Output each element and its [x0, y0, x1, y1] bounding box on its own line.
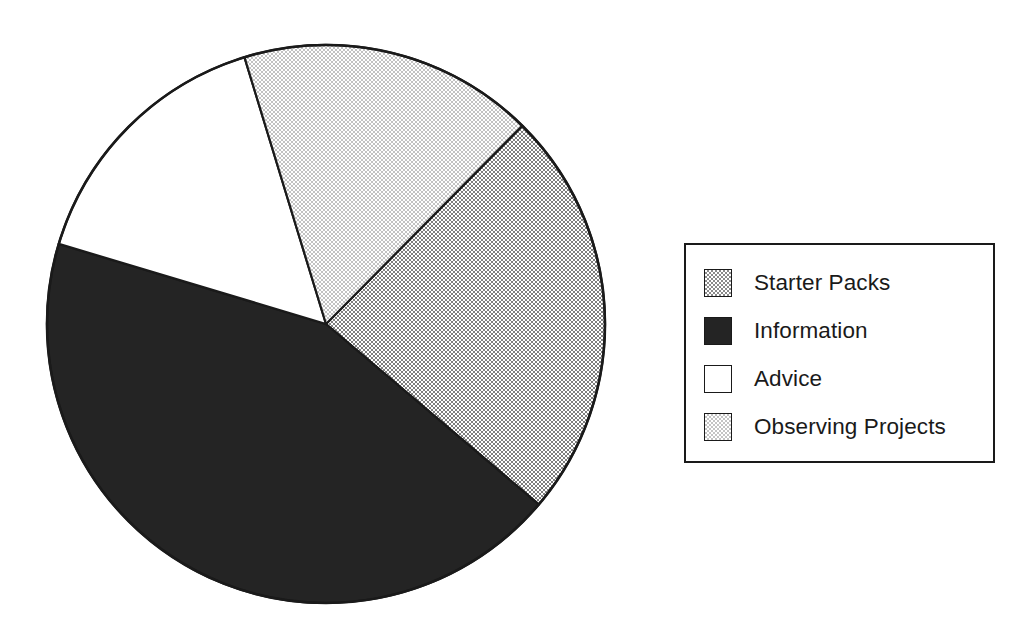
pie-chart-figure: Starter Packs Information Advice Observi…	[0, 0, 1020, 631]
pie-chart-svg	[45, 43, 607, 605]
legend-item-starter-packs[interactable]: Starter Packs	[704, 259, 993, 307]
legend-swatch-advice	[704, 365, 732, 393]
legend-label-starter-packs: Starter Packs	[754, 272, 890, 295]
pie-slices	[47, 45, 605, 603]
legend-item-observing-projects[interactable]: Observing Projects	[704, 403, 993, 451]
legend-item-information[interactable]: Information	[704, 307, 993, 355]
pie-chart	[45, 43, 607, 605]
legend-swatch-starter-packs	[704, 269, 732, 297]
chart-legend: Starter Packs Information Advice Observi…	[684, 243, 995, 463]
legend-label-observing-projects: Observing Projects	[754, 416, 946, 439]
legend-item-advice[interactable]: Advice	[704, 355, 993, 403]
legend-swatch-information	[704, 317, 732, 345]
legend-swatch-observing-projects	[704, 413, 732, 441]
legend-label-information: Information	[754, 320, 868, 343]
legend-label-advice: Advice	[754, 368, 822, 391]
